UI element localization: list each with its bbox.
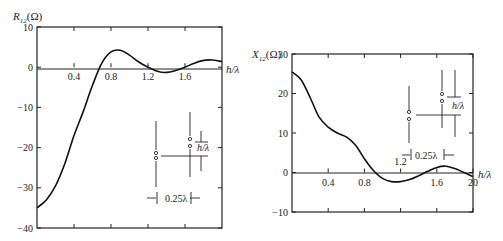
- x12-x-axis-title: h/λ: [478, 168, 492, 180]
- x12-y-tick-label: 0: [283, 167, 288, 178]
- x12-y-tick-label: 30: [278, 49, 288, 60]
- dipole-1-feed-top: [154, 151, 157, 154]
- x12-y-tick-label: −10: [272, 207, 288, 218]
- dipole-2-feed-top: [440, 92, 443, 95]
- x12-y-axis-title: X12(Ω): [251, 48, 282, 63]
- r12-y-tick-label: −20: [17, 142, 33, 153]
- x12-inset-height-label: h/λ: [452, 100, 465, 111]
- r12-curve: [37, 50, 222, 208]
- dipole-2-feed-bottom: [188, 144, 191, 147]
- r12-y-tick-label: −30: [17, 182, 33, 193]
- x12-inset-spacing-label: 0.25λ: [415, 150, 438, 161]
- r12-y-tick-label: 10: [23, 22, 33, 33]
- r12-inset-height-label: h/λ: [197, 142, 210, 153]
- x12-x-tick-label: 1.2: [394, 156, 407, 167]
- x12-plot-frame: [292, 54, 473, 212]
- x12-chart: X12(Ω) h/λ 3020100−10 0.40.81.21.620 h/λ…: [251, 48, 492, 218]
- x12-x-tick-label: 1.6: [431, 177, 444, 188]
- r12-x-tick-label: 1.6: [179, 71, 192, 82]
- r12-x-axis-title: h/λ: [226, 63, 240, 75]
- r12-x-tick-label: 1.2: [142, 71, 155, 82]
- r12-y-tick-label: 0: [28, 62, 33, 73]
- x12-x-tick-label: 0.8: [358, 177, 371, 188]
- x12-y-ticks: 3020100−10: [272, 49, 473, 218]
- r12-x-tick-label: 0.4: [68, 71, 81, 82]
- x12-x-tick-label: 0.4: [322, 177, 335, 188]
- dipole-2-feed-bottom: [440, 99, 443, 102]
- x12-x-tick-label: 20: [468, 177, 478, 188]
- x12-y-tick-label: 10: [278, 128, 288, 139]
- r12-x-tick-label: 0.8: [105, 71, 118, 82]
- dipole-2-feed-top: [188, 137, 191, 140]
- x12-y-tick-label: 20: [278, 88, 288, 99]
- r12-inset-spacing-label: 0.25λ: [165, 193, 188, 204]
- r12-y-tick-label: −10: [17, 102, 33, 113]
- dipole-1-feed-top: [407, 110, 410, 113]
- x12-dipole-inset: h/λ 0.25λ: [402, 70, 465, 161]
- r12-chart: R12(Ω) h/λ 100−10−20−30−40 0.40.81.21.6 …: [12, 10, 240, 234]
- dipole-1-feed-bottom: [154, 156, 157, 159]
- x12-curve: [292, 72, 473, 182]
- dipole-1-feed-bottom: [407, 117, 410, 120]
- chart-canvas: R12(Ω) h/λ 100−10−20−30−40 0.40.81.21.6 …: [0, 0, 503, 241]
- r12-dipole-inset: h/λ 0.25λ: [147, 112, 210, 204]
- r12-y-tick-label: −40: [17, 223, 33, 234]
